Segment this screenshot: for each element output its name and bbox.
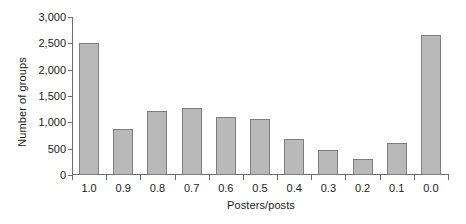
x-axis-tick-mark [72, 175, 73, 180]
bar [284, 139, 304, 175]
y-axis-tick-label: 0 [20, 170, 66, 181]
plot-area [72, 17, 448, 175]
bar [387, 143, 407, 175]
y-axis-tick-labels: 05001,0001,5002,0002,5003,000 [20, 0, 66, 224]
y-axis-tick-mark [68, 96, 72, 97]
x-axis-tick-label: 0.0 [411, 182, 451, 194]
x-axis-tick-mark [414, 175, 415, 180]
x-axis-tick-mark [380, 175, 381, 180]
y-axis-tick-label: 3,000 [20, 12, 66, 23]
bar [216, 117, 236, 175]
y-axis-tick-label: 2,500 [20, 38, 66, 49]
x-axis-tick-mark [140, 175, 141, 180]
y-axis-tick-label: 1,500 [20, 91, 66, 102]
x-axis-tick-mark [209, 175, 210, 180]
y-axis-tick-mark [68, 17, 72, 18]
x-axis-tick-mark [345, 175, 346, 180]
y-axis-tick-mark [68, 122, 72, 123]
y-axis-tick-label: 2,000 [20, 65, 66, 76]
y-axis-tick-mark [68, 149, 72, 150]
bar [250, 119, 270, 175]
bar [353, 159, 373, 175]
x-axis-tick-mark [106, 175, 107, 180]
bar [147, 111, 167, 175]
x-axis-tick-mark [448, 175, 449, 180]
y-axis-tick-label: 1,000 [20, 117, 66, 128]
bar-chart: Number of groups 05001,0001,5002,0002,50… [0, 0, 466, 224]
x-axis-tick-mark [175, 175, 176, 180]
bar [421, 35, 441, 175]
y-axis-tick-mark [68, 43, 72, 44]
x-axis-title: Posters/posts [72, 199, 450, 211]
bar [182, 108, 202, 175]
x-axis-tick-mark [243, 175, 244, 180]
x-axis-tick-mark [311, 175, 312, 180]
bar [79, 43, 99, 175]
bars-layer [72, 17, 448, 175]
y-axis-tick-label: 500 [20, 144, 66, 155]
bar [318, 150, 338, 175]
x-axis-tick-mark [277, 175, 278, 180]
bar [113, 129, 133, 175]
y-axis-tick-mark [68, 70, 72, 71]
x-axis-tick-labels: 1.00.90.80.70.60.50.40.30.20.10.0 [72, 182, 450, 196]
